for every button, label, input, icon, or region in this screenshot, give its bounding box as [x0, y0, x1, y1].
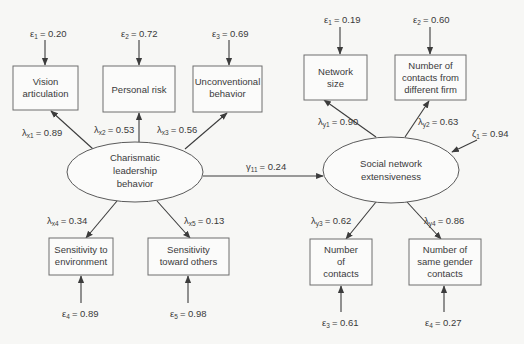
- indicator-same-gender-contacts: Number of same gender contacts: [409, 239, 481, 285]
- error-label-x3: ε3= 0.69: [212, 28, 249, 40]
- loading-label-x3: λx3= 0.56: [157, 124, 197, 136]
- svg-text:Social network: Social network: [360, 158, 422, 169]
- indicator-network-size: Network size: [304, 55, 367, 100]
- svg-text:Sensitivity to: Sensitivity to: [54, 244, 107, 255]
- loading-label-x4: λx4= 0.34: [47, 215, 87, 227]
- indicator-vision-articulation: Vision articulation: [13, 66, 78, 110]
- svg-text:Vision: Vision: [33, 76, 59, 87]
- svg-text:size: size: [327, 78, 344, 89]
- indicator-contacts-different-firm: Number of contacts from different firm: [395, 55, 466, 100]
- error-label-x4: ε4= 0.89: [62, 308, 99, 320]
- loading-label-x1: λx1= 0.89: [22, 127, 62, 139]
- svg-text:Sensitivity: Sensitivity: [167, 244, 210, 255]
- svg-text:behavior: behavior: [209, 88, 245, 99]
- indicator-sensitivity-toward-others: Sensitivity toward others: [148, 238, 229, 275]
- svg-text:Personal risk: Personal risk: [112, 84, 167, 95]
- path-diagram: Charismatic leadership behavior Social n…: [0, 0, 524, 344]
- latent-charismatic-leadership: Charismatic leadership behavior: [67, 142, 203, 202]
- disturbance-arrow: [452, 140, 477, 152]
- loading-label-y4: λy4= 0.86: [424, 215, 464, 228]
- svg-text:Number: Number: [324, 244, 358, 255]
- error-label-y3: ε3= 0.61: [322, 317, 359, 329]
- svg-text:different firm: different firm: [404, 84, 457, 95]
- svg-text:Number of: Number of: [408, 60, 453, 71]
- loading-label-y2: λy2= 0.63: [418, 116, 458, 129]
- loading-label-y3: λy3= 0.62: [311, 215, 351, 228]
- svg-text:extensiveness: extensiveness: [361, 171, 421, 182]
- indicator-sensitivity-to-environment: Sensitivity to environment: [49, 238, 113, 275]
- svg-text:leadership: leadership: [113, 165, 157, 176]
- error-label-y4: ε4= 0.27: [425, 317, 462, 329]
- svg-text:contacts: contacts: [323, 268, 359, 279]
- loading-label-x2: λx2= 0.53: [94, 124, 134, 136]
- loading-label-x5: λx5= 0.13: [184, 215, 224, 227]
- svg-text:contacts from: contacts from: [402, 72, 459, 83]
- svg-text:articulation: articulation: [23, 88, 69, 99]
- disturbance-label: ζ1= 0.94: [472, 128, 509, 140]
- error-label-x2: ε2= 0.72: [121, 28, 158, 40]
- error-label-y1: ε1= 0.19: [324, 14, 361, 26]
- indicator-number-of-contacts: Number of contacts: [310, 239, 372, 285]
- latent-social-network-extensiveness: Social network extensiveness: [323, 137, 459, 203]
- svg-text:Charismatic: Charismatic: [110, 152, 160, 163]
- svg-text:Unconventional: Unconventional: [195, 76, 261, 87]
- error-label-x1: ε1= 0.20: [30, 28, 67, 40]
- svg-text:contacts: contacts: [427, 268, 463, 279]
- loading-arrow-x4: [86, 201, 117, 238]
- loading-label-y1: λy1= 0.90: [318, 116, 358, 129]
- svg-text:Network: Network: [318, 66, 353, 77]
- svg-text:Number of: Number of: [423, 244, 468, 255]
- svg-text:environment: environment: [55, 256, 108, 267]
- svg-text:of: of: [337, 256, 345, 267]
- svg-text:toward others: toward others: [160, 256, 218, 267]
- indicator-unconventional-behavior: Unconventional behavior: [193, 66, 262, 112]
- svg-text:behavior: behavior: [117, 178, 153, 189]
- loading-arrow-y2: [405, 101, 429, 137]
- indicator-personal-risk: Personal risk: [103, 66, 175, 112]
- structural-path-label: γ11= 0.24: [246, 161, 286, 173]
- error-label-x5: ε5= 0.98: [170, 308, 207, 320]
- error-label-y2: ε2= 0.60: [413, 14, 450, 26]
- svg-text:same gender: same gender: [417, 256, 472, 267]
